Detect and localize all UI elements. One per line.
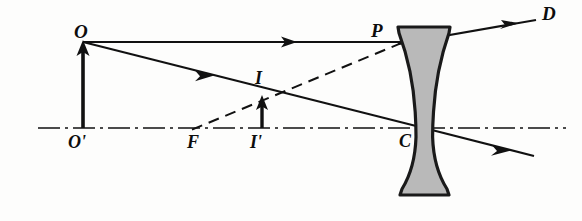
ray-through-centre-continued bbox=[424, 128, 534, 156]
concave-lens bbox=[398, 27, 450, 195]
ray-through-centre bbox=[83, 42, 424, 128]
label-ray-end: D bbox=[542, 4, 556, 23]
label-object-base: O' bbox=[68, 133, 86, 151]
label-image-base: I' bbox=[250, 133, 262, 151]
label-lens-centre: C bbox=[399, 132, 411, 150]
label-lens-top: P bbox=[371, 21, 383, 40]
object-arrow bbox=[77, 40, 90, 128]
ray-diagram-figure: O O' F I I' P C D bbox=[0, 0, 582, 221]
label-object-top: O bbox=[74, 22, 88, 41]
label-focus: F bbox=[187, 133, 199, 151]
label-image-top: I bbox=[255, 69, 262, 87]
